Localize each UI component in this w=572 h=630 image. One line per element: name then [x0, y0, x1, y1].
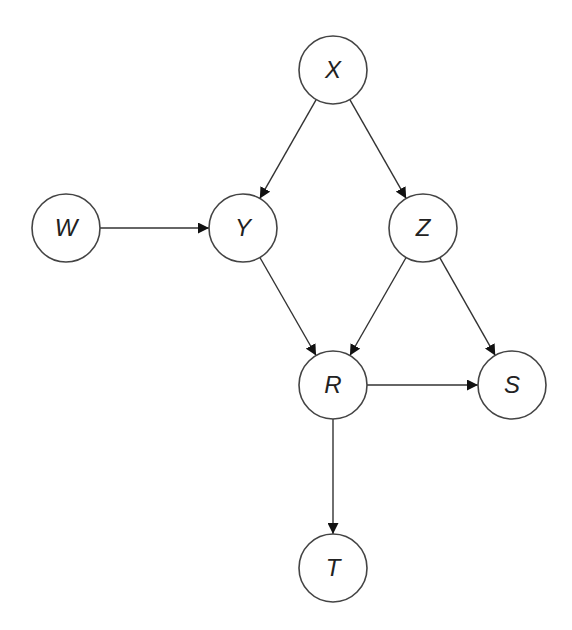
node-w: W [32, 194, 100, 262]
node-label: Y [235, 214, 253, 241]
edge-z-to-s [440, 258, 495, 356]
node-y: Y [209, 194, 277, 262]
node-label: R [324, 371, 341, 398]
edge-x-to-z [350, 100, 406, 199]
node-r: R [299, 351, 367, 419]
edge-x-to-y [260, 100, 316, 199]
nodes-layer: XWYZRST [32, 36, 546, 602]
node-label: T [326, 554, 343, 581]
node-z: Z [389, 194, 457, 262]
node-label: S [504, 371, 520, 398]
edges-layer [100, 100, 495, 534]
edge-y-to-r [260, 257, 316, 355]
node-s: S [478, 351, 546, 419]
node-label: Z [415, 214, 432, 241]
causal-graph: XWYZRST [0, 0, 572, 630]
node-label: X [324, 56, 342, 83]
node-t: T [299, 534, 367, 602]
edge-z-to-r [350, 257, 406, 355]
node-label: W [55, 214, 80, 241]
node-x: X [299, 36, 367, 104]
